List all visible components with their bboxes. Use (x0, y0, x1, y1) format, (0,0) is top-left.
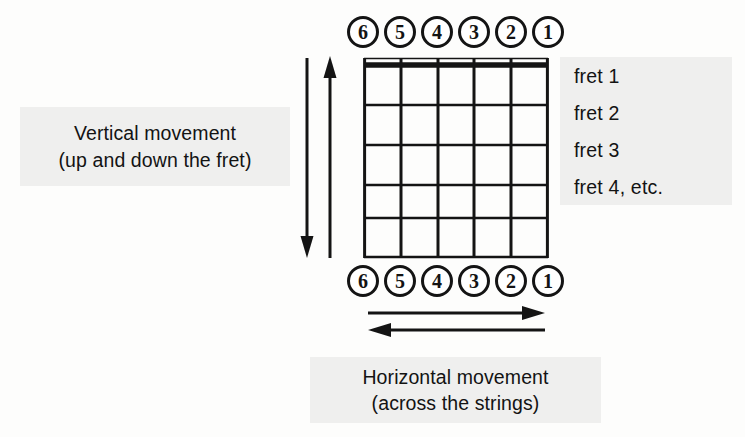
up-arrow-icon (324, 56, 337, 258)
horizontal-caption-line-2: (across the strings) (372, 390, 540, 416)
string-number-bottom-5: 5 (384, 265, 416, 297)
fret-label-1: fret 1 (574, 65, 620, 88)
string-number-bottom-6: 6 (347, 265, 379, 297)
vertical-caption-line-2: (up and down the fret) (59, 147, 252, 173)
string-number-top-6: 6 (347, 16, 379, 48)
left-arrow-icon (368, 323, 545, 337)
vertical-caption-line-1: Vertical movement (74, 120, 236, 146)
vertical-movement-caption: Vertical movement (up and down the fret) (20, 107, 290, 186)
fret-label-2: fret 2 (574, 102, 620, 125)
fretboard-svg (363, 57, 549, 259)
string-number-bottom-1: 1 (532, 265, 564, 297)
string-number-top-2: 2 (495, 16, 527, 48)
string-number-top-1: 1 (532, 16, 564, 48)
string-number-bottom-4: 4 (421, 265, 453, 297)
string-number-bottom-3: 3 (458, 265, 490, 297)
string-number-top-3: 3 (458, 16, 490, 48)
fret-label-4: fret 4, etc. (574, 176, 663, 199)
horizontal-movement-caption: Horizontal movement (across the strings) (310, 357, 601, 423)
diagram-canvas: Vertical movement (up and down the fret)… (0, 0, 745, 437)
right-arrow-icon (368, 306, 545, 320)
string-number-top-4: 4 (421, 16, 453, 48)
fretboard-grid (363, 57, 549, 259)
string-number-bottom-2: 2 (495, 265, 527, 297)
fret-label-3: fret 3 (574, 139, 620, 162)
down-arrow-icon (301, 58, 314, 258)
horizontal-caption-line-1: Horizontal movement (362, 364, 548, 390)
fret-label-list: fret 1 fret 2 fret 3 fret 4, etc. (560, 57, 732, 205)
string-number-top-5: 5 (384, 16, 416, 48)
